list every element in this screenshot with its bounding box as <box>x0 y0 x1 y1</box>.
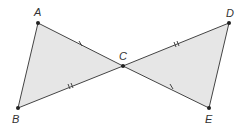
label-c: C <box>119 50 127 62</box>
label-b: B <box>12 113 19 125</box>
point-e <box>207 106 211 110</box>
two-triangles-diagram: A B C D E <box>0 0 247 128</box>
label-e: E <box>205 113 213 125</box>
triangle-cde <box>123 23 229 108</box>
label-a: A <box>33 6 41 18</box>
point-a <box>36 21 40 25</box>
triangle-abc <box>18 23 123 108</box>
label-d: D <box>226 7 234 19</box>
point-d <box>227 21 231 25</box>
point-b <box>16 106 20 110</box>
point-c <box>121 64 125 68</box>
